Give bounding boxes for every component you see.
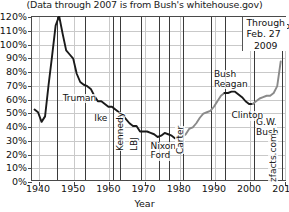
- y-axis-tick-label: 30%: [6, 134, 27, 145]
- y-axis-tick-label: 110%: [0, 24, 27, 35]
- x-axis-title: Year: [0, 198, 289, 209]
- x-axis-tick-label: 2000: [237, 183, 261, 194]
- y-axis-tick-label: 50%: [6, 107, 27, 118]
- y-axis-tick-label: 100%: [0, 38, 27, 49]
- annotation-truman: Truman: [63, 94, 97, 103]
- through-line-1: Through: [246, 17, 285, 28]
- y-axis-tick-label: 10%: [6, 162, 27, 173]
- debt-curve-segment: [224, 92, 252, 104]
- y-axis-tick-label: 80%: [6, 66, 27, 77]
- through-line-3: 2009: [246, 40, 285, 51]
- annotation-ford: Ford: [151, 151, 171, 160]
- annotation-reagan: Reagan: [214, 80, 248, 89]
- debt-curve-segment: [182, 93, 224, 137]
- y-axis-tick-labels: 0%10%20%30%40%50%60%70%80%90%100%110%120…: [0, 0, 29, 212]
- annotation-kennedy: Kennedy: [115, 112, 125, 151]
- annotation-lbj: LBJ: [129, 137, 139, 151]
- x-axis-tick-label: 1960: [96, 183, 120, 194]
- y-axis-tick-label: 70%: [6, 79, 27, 90]
- annotation-ike: Ike: [94, 114, 107, 123]
- x-axis-tick-label: 1980: [167, 183, 191, 194]
- y-axis-tick-label: 60%: [6, 93, 27, 104]
- x-axis-tick-label: 1940: [26, 183, 50, 194]
- y-axis-tick-label: 90%: [6, 52, 27, 63]
- x-axis-tick-label: 1990: [202, 183, 226, 194]
- x-axis-tick-label: 1950: [61, 183, 85, 194]
- through-date-note: Through Feb. 27 2009: [242, 17, 287, 51]
- x-axis-tick-label: 2010: [272, 183, 289, 194]
- debt-curve-segment: [35, 16, 183, 138]
- x-axis-tick-label: 1970: [131, 183, 155, 194]
- chart-caption: (Data through 2007 is from Bush's whiteh…: [0, 0, 289, 10]
- debt-gdp-chart: (Data through 2007 is from Bush's whiteh…: [0, 0, 289, 212]
- zfacts-watermark: zfacts.com: [268, 133, 278, 182]
- y-axis-tick-label: 120%: [0, 11, 27, 22]
- through-line-2: Feb. 27: [246, 28, 285, 39]
- debt-curve-segment: [253, 61, 281, 104]
- y-axis-tick-label: 0%: [12, 176, 27, 187]
- y-axis-tick-label: 40%: [6, 121, 27, 132]
- y-axis-tick-label: 20%: [6, 148, 27, 159]
- annotation-carter: Carter: [175, 125, 185, 153]
